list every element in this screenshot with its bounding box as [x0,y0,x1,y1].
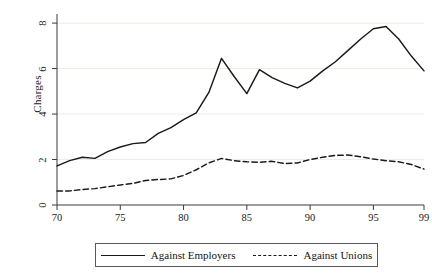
chart-legend: Against Employers Against Unions [95,243,378,267]
series-line-against-unions [57,155,424,191]
x-tick-label-95: 95 [360,212,386,223]
legend-line-swatch-dashed [253,255,297,256]
legend-label-against-employers: Against Employers [151,249,236,261]
chart-plot-area [0,0,432,279]
chart-figure: Charges 02468 70758085909599 Against Emp… [0,0,432,279]
legend-item-against-employers: Against Employers [101,249,236,261]
x-tick-label-99: 99 [411,212,432,223]
series-line-against-employers [57,27,424,166]
x-tick-label-75: 75 [107,212,133,223]
y-tick-label-0: 0 [36,198,50,212]
y-tick-label-8: 8 [36,16,50,30]
y-tick-label-4: 4 [36,107,50,121]
y-tick-label-6: 6 [36,62,50,76]
x-tick-label-80: 80 [171,212,197,223]
legend-line-swatch-solid [101,255,145,256]
legend-label-against-unions: Against Unions [303,249,372,261]
legend-item-against-unions: Against Unions [253,249,372,261]
y-tick-label-2: 2 [36,153,50,167]
x-tick-label-85: 85 [234,212,260,223]
x-tick-label-70: 70 [44,212,70,223]
x-tick-label-90: 90 [297,212,323,223]
